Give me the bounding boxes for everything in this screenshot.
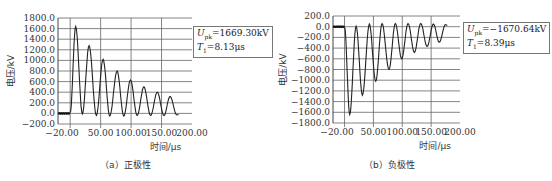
y-tick-label: 1400.0 xyxy=(24,34,56,44)
y-axis-label: 电压/kV xyxy=(277,52,288,85)
x-tick-label: 200.00 xyxy=(444,127,476,137)
x-tick-label: 150.00 xyxy=(415,127,447,137)
y-tick-label: 0.0 xyxy=(41,108,56,118)
y-tick-label: −1600.0 xyxy=(291,107,330,117)
y-tick-label: −1400.0 xyxy=(291,97,330,107)
x-tick-label: 50.00 xyxy=(361,127,387,137)
annotation-box-positive: Upk=1669.30kV T1=8.13μs xyxy=(193,26,273,58)
y-tick-label: 1800.0 xyxy=(24,13,56,23)
y-tick-label: 1600.0 xyxy=(24,24,56,34)
chart-panel-positive: 1800.01600.01400.01200.01000.0800.0600.0… xyxy=(0,0,276,181)
y-tick-label: −400.0 xyxy=(297,43,331,53)
x-tick-label: 100.00 xyxy=(387,127,419,137)
y-tick-label: 1000.0 xyxy=(24,55,56,65)
x-tick-label: −20.00 xyxy=(320,127,354,137)
caption-negative: （b）负极性 xyxy=(364,158,415,171)
x-tick-label: 100.00 xyxy=(115,128,147,138)
y-tick-label: 600.0 xyxy=(29,77,55,87)
x-axis-label: 时间/μs xyxy=(150,141,182,152)
y-tick-label: 200.0 xyxy=(304,11,330,21)
caption-positive: （a）正极性 xyxy=(100,158,151,171)
y-tick-label: −1000.0 xyxy=(291,75,330,85)
chart-panel-negative: 200.00.0−200.0−400.0−600.0−800.0−1000.0−… xyxy=(276,0,552,181)
x-tick-label: −20.00 xyxy=(45,128,79,138)
x-axis-label: 时间/μs xyxy=(419,140,451,151)
annotation-box-negative: Upk=−1670.64kV T1=8.39μs xyxy=(463,22,550,54)
y-tick-label: 400.0 xyxy=(29,87,55,97)
x-tick-label: 50.00 xyxy=(88,128,114,138)
x-tick-label: 200.00 xyxy=(176,128,208,138)
y-tick-label: −800.0 xyxy=(297,65,331,75)
y-tick-label: 1200.0 xyxy=(24,45,56,55)
y-tick-label: 0.0 xyxy=(316,22,331,32)
y-tick-label: −200.0 xyxy=(297,32,331,42)
y-tick-label: −1200.0 xyxy=(291,86,330,96)
y-tick-label: 200.0 xyxy=(29,98,55,108)
y-axis-label: 电压/kV xyxy=(5,54,16,87)
y-tick-label: −600.0 xyxy=(297,54,331,64)
x-tick-label: 150.00 xyxy=(146,128,178,138)
y-tick-label: 800.0 xyxy=(29,66,55,76)
